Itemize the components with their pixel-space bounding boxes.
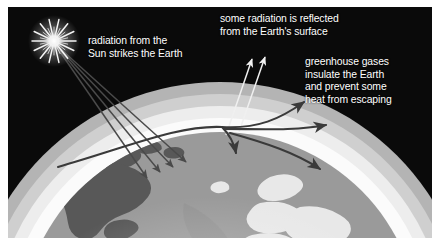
greenhouse-effect-figure: radiation from the Sun strikes the Earth… — [0, 0, 439, 247]
sun — [28, 15, 80, 67]
caption-sun-radiation: radiation from the Sun strikes the Earth — [88, 35, 182, 60]
diagram-scene: radiation from the Sun strikes the Earth… — [8, 7, 432, 238]
diagram-svg — [8, 7, 432, 238]
caption-greenhouse-gases: greenhouse gases insulate the Earth and … — [305, 56, 392, 106]
caption-reflected-radiation: some radiation is reflected from the Ear… — [220, 13, 339, 38]
